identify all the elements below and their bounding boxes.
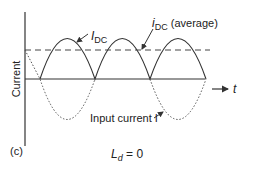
idc-pointer [77, 34, 88, 42]
input-current-label: Input current I [90, 112, 158, 124]
rectifier-current-diagram: Current IDC iDC (average) t Input curren… [0, 0, 255, 170]
average-pointer [142, 29, 153, 49]
input-current-curve [25, 50, 206, 120]
rectified-current-curve [40, 39, 206, 80]
average-label: iDC (average) [152, 16, 218, 32]
y-axis-label: Current [10, 61, 22, 98]
idc-label: IDC [91, 29, 108, 45]
panel-label: (c) [10, 145, 23, 157]
caption: Ld = 0 [111, 147, 143, 163]
t-label: t [233, 82, 237, 96]
